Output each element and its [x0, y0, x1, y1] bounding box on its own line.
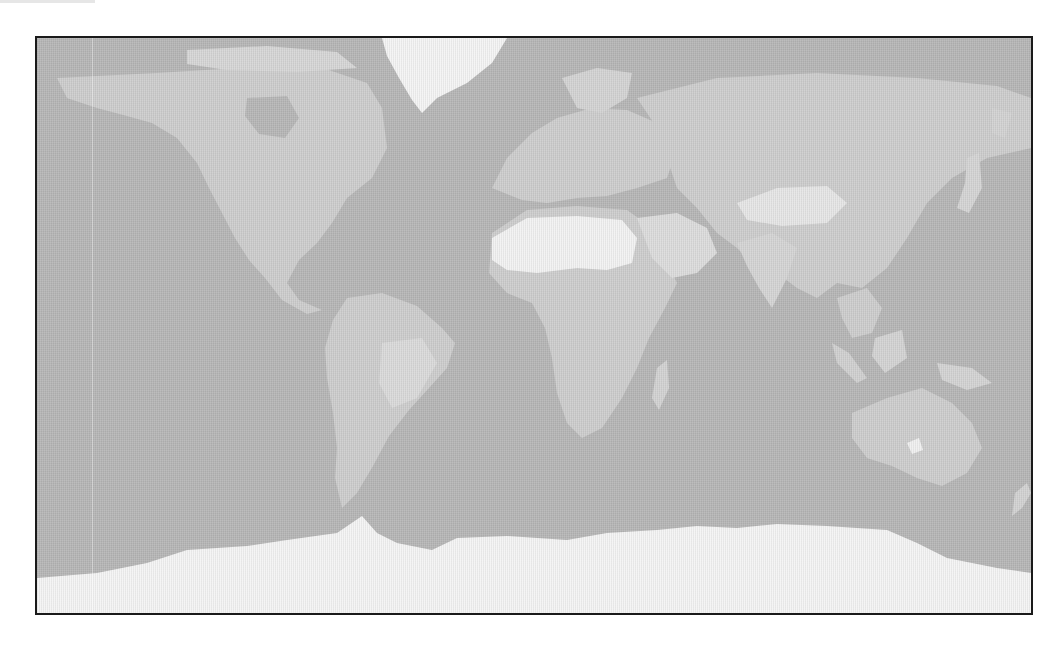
world-map-frame [35, 36, 1033, 615]
scan-artifact-line [0, 0, 95, 3]
scan-artifact-meridian [92, 38, 93, 613]
world-map [37, 38, 1031, 613]
